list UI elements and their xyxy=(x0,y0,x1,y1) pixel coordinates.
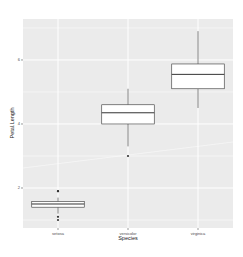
outlier-point xyxy=(57,216,59,218)
y-tick-label: 2 xyxy=(18,185,21,190)
y-tick-label: 4 xyxy=(18,121,21,126)
outlier-point xyxy=(127,155,129,157)
y-tick-label: 6 xyxy=(18,57,21,62)
y-axis-title: Petal.Length xyxy=(9,108,15,139)
y-axis: 246 xyxy=(18,57,23,190)
outlier-point xyxy=(57,219,59,221)
x-axis-title: Species xyxy=(118,235,138,241)
iqr-box xyxy=(172,64,225,89)
boxplot-chart: 246 setosaversicolorvirginica Species Pe… xyxy=(0,0,243,257)
x-tick-label: virginica xyxy=(191,231,206,236)
outlier-point xyxy=(57,190,59,192)
iqr-box xyxy=(102,105,155,124)
x-tick-label: setosa xyxy=(52,231,65,236)
